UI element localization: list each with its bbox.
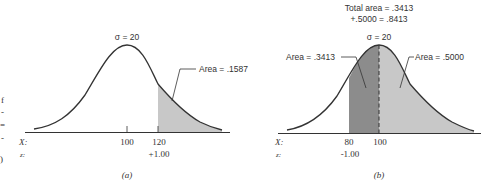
x-tick-label: 80 [345, 137, 355, 147]
margin-fragment: - [1, 133, 4, 143]
panel-b: Total area = .3413 +.5000 = .8413 σ = 20… [274, 3, 481, 180]
margin-fragment: f [1, 95, 4, 105]
x-axis-label: X: [18, 137, 28, 147]
panel-caption: (a) [122, 170, 133, 180]
area-annotation: Area = .1587 [199, 64, 248, 74]
x-tick-label: 120 [152, 137, 166, 147]
area-annotation-dark: Area = .3413 [286, 52, 335, 62]
sigma-label: σ = 20 [367, 32, 392, 42]
panel-caption: (b) [374, 170, 385, 180]
x-axis-label: X: [274, 137, 284, 147]
normal-curve [34, 45, 222, 130]
margin-fragment: ) [0, 154, 3, 164]
total-area-label: Total area = .3413 [345, 3, 414, 13]
area-annotation-light: Area = .5000 [415, 52, 464, 62]
margin-fragment: = [0, 120, 5, 130]
margin-fragment: - [1, 107, 4, 117]
sigma-label: σ = 20 [115, 32, 140, 42]
annotation-leader [172, 69, 196, 101]
left-margin-fragments: f - = - ) [0, 95, 5, 164]
z-axis-label: z: [19, 151, 25, 159]
figure-canvas: f - = - ) σ = 20 Area = .1587 X: z: 100 … [0, 0, 502, 187]
z-tick-label: -1.00 [341, 149, 360, 159]
x-tick-label: 100 [373, 137, 387, 147]
shaded-area-right-tail [158, 84, 222, 132]
shaded-area-80-to-100 [349, 45, 379, 133]
x-tick-label: 100 [120, 137, 134, 147]
z-axis-label: z: [275, 151, 281, 159]
z-tick-label: +1.00 [149, 149, 170, 159]
panel-a: σ = 20 Area = .1587 X: z: 100 120 +1.00 … [18, 32, 248, 180]
total-area-sum-label: +.5000 = .8413 [350, 14, 407, 24]
